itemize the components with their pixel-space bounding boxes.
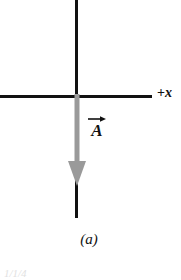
clipped-text-fragment: 1/1/4 — [4, 267, 27, 279]
x-axis-label-variable: x — [165, 85, 172, 100]
x-axis-label-sign: + — [157, 85, 165, 100]
right-arrow-icon — [84, 114, 110, 122]
vector-label: A — [84, 114, 110, 139]
vector-diagram-figure: +x A (a) 1/1/4 — [0, 0, 181, 280]
panel-label: (a) — [68, 231, 110, 248]
vector-label-glyph: A — [84, 122, 110, 139]
down-arrow-icon — [62, 94, 92, 189]
x-axis-label: +x — [157, 85, 172, 101]
